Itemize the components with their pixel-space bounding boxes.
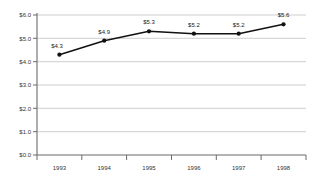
data-label-1998: $5.6 — [278, 12, 290, 18]
y-tick-label-4: $4.0 — [19, 59, 31, 65]
series-markers — [57, 22, 285, 57]
x-tick-label-1996: 1996 — [187, 165, 201, 171]
y-tick-label-6: $6.0 — [19, 12, 31, 18]
data-point-1995[interactable] — [147, 29, 151, 33]
y-tick-label-1: $1.0 — [19, 129, 31, 135]
data-label-1997: $5.2 — [233, 22, 245, 28]
x-tick-label-1998: 1998 — [277, 165, 291, 171]
y-axis — [33, 13, 37, 155]
x-axis — [37, 155, 306, 160]
series-line — [59, 24, 283, 54]
x-tick-label-1997: 1997 — [232, 165, 246, 171]
x-tick-label-1993: 1993 — [53, 165, 67, 171]
y-tick-label-0: $0.0 — [19, 152, 31, 158]
x-tick-label-1995: 1995 — [142, 165, 156, 171]
data-label-1994: $4.9 — [98, 29, 110, 35]
y-tick-labels: $6.0 $5.0 $4.0 $3.0 $2.0 $1.0 $0.0 — [19, 12, 31, 158]
data-point-1994[interactable] — [102, 39, 106, 43]
data-point-1997[interactable] — [237, 32, 241, 36]
x-tick-label-1994: 1994 — [98, 165, 112, 171]
y-tick-label-5: $5.0 — [19, 36, 31, 42]
data-point-1996[interactable] — [192, 32, 196, 36]
y-tick-label-3: $3.0 — [19, 82, 31, 88]
data-label-1993: $4.3 — [51, 43, 63, 49]
x-tick-labels: 1993 1994 1995 1996 1997 1998 — [53, 165, 291, 171]
data-label-1995: $5.3 — [143, 19, 155, 25]
data-label-1996: $5.2 — [188, 22, 200, 28]
y-tick-label-2: $2.0 — [19, 106, 31, 112]
data-point-1993[interactable] — [57, 53, 61, 57]
data-point-1998[interactable] — [281, 22, 285, 26]
line-chart: $6.0 $5.0 $4.0 $3.0 $2.0 $1.0 $0.0 1993 … — [0, 0, 327, 177]
chart-canvas: $6.0 $5.0 $4.0 $3.0 $2.0 $1.0 $0.0 1993 … — [0, 0, 327, 177]
